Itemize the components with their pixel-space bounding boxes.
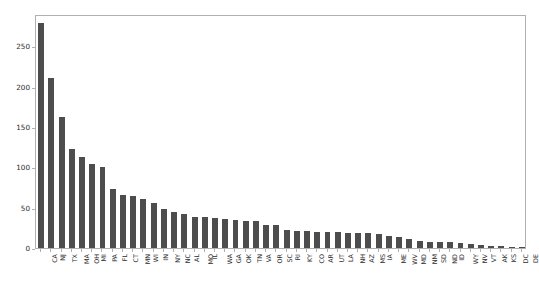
bar-al — [181, 214, 187, 248]
x-tick-mark — [408, 249, 409, 252]
y-tick-label: 50 — [0, 205, 30, 212]
bar-co — [304, 231, 310, 248]
bar-ny — [161, 209, 167, 248]
x-tick-label-sd: SD — [441, 254, 447, 263]
x-tick-mark — [40, 249, 41, 252]
x-tick-label-ny: NY — [175, 254, 181, 263]
x-tick-label-il: IL — [212, 254, 218, 259]
bar-ks — [498, 246, 504, 248]
x-tick-label-de: DE — [533, 254, 539, 263]
x-tick-mark — [81, 249, 82, 252]
x-tick-mark — [306, 249, 307, 252]
x-tick-label-nj: NJ — [60, 254, 66, 261]
bar-nd — [437, 242, 443, 248]
bar-sc — [273, 225, 279, 248]
x-tick-mark — [521, 249, 522, 252]
x-tick-mark — [214, 249, 215, 252]
x-tick-label-ri: RI — [295, 254, 301, 260]
x-tick-label-wy: WY — [473, 254, 479, 264]
bar-ma — [69, 149, 75, 248]
bar-sd — [427, 242, 433, 248]
x-tick-mark — [490, 249, 491, 252]
x-tick-mark — [388, 249, 389, 252]
x-tick-mark — [71, 249, 72, 252]
x-tick-label-ca: CA — [52, 254, 58, 263]
x-tick-mark — [367, 249, 368, 252]
bar-mo — [192, 217, 198, 248]
x-tick-label-ok: OK — [247, 254, 253, 263]
chart-axes — [35, 15, 526, 249]
x-tick-mark — [132, 249, 133, 252]
x-tick-mark — [224, 249, 225, 252]
x-tick-label-mn: MN — [145, 254, 151, 264]
bar-nm — [417, 241, 423, 248]
x-tick-label-ky: KY — [307, 254, 313, 262]
x-tick-label-fl: FL — [122, 254, 128, 261]
bar-ia — [376, 234, 382, 248]
bar-ms — [365, 233, 371, 248]
x-tick-label-or: OR — [278, 254, 284, 263]
x-tick-mark — [234, 249, 235, 252]
bar-chart-figure: 050100150200250 CANJTXMAOHMIPAFLCTMNWIIN… — [0, 0, 539, 288]
x-tick-label-mi: MI — [102, 254, 108, 261]
x-tick-mark — [204, 249, 205, 252]
y-tick-mark — [32, 47, 35, 48]
x-tick-label-ma: MA — [84, 254, 90, 264]
x-tick-label-tn: TN — [256, 254, 262, 263]
x-tick-mark — [265, 249, 266, 252]
bar-tn — [243, 221, 249, 248]
x-tick-label-id: ID — [459, 254, 465, 261]
x-tick-mark — [429, 249, 430, 252]
bar-wv — [396, 237, 402, 248]
bar-ca — [38, 23, 44, 248]
x-tick-mark — [91, 249, 92, 252]
x-tick-label-in: IN — [162, 254, 168, 261]
bar-ri — [284, 230, 290, 248]
x-tick-mark — [275, 249, 276, 252]
x-tick-mark — [419, 249, 420, 252]
y-tick-label: 100 — [0, 164, 30, 171]
y-tick-mark — [32, 168, 35, 169]
bar-il — [202, 217, 208, 248]
plot-area — [36, 16, 525, 248]
y-tick-label: 250 — [0, 43, 30, 50]
x-tick-label-az: AZ — [369, 254, 375, 263]
x-tick-label-sc: SC — [287, 254, 293, 263]
x-tick-mark — [357, 249, 358, 252]
x-tick-label-ia: IA — [387, 254, 393, 260]
x-tick-mark — [337, 249, 338, 252]
bar-ga — [222, 219, 228, 248]
x-tick-mark — [316, 249, 317, 252]
bar-mi — [89, 164, 95, 248]
x-tick-mark — [245, 249, 246, 252]
bar-vt — [478, 245, 484, 248]
bar-fl — [110, 189, 116, 248]
x-tick-mark — [122, 249, 123, 252]
bar-nv — [468, 244, 474, 248]
bar-tx — [59, 117, 65, 248]
bar-va — [253, 221, 259, 248]
bar-nc — [171, 212, 177, 248]
x-tick-mark — [439, 249, 440, 252]
x-tick-label-al: AL — [194, 254, 200, 262]
x-tick-label-dc: DC — [523, 254, 529, 263]
x-tick-label-pa: PA — [112, 254, 118, 262]
x-tick-mark — [511, 249, 512, 252]
bar-ut — [325, 232, 331, 248]
x-tick-mark — [286, 249, 287, 252]
x-tick-label-tx: TX — [72, 254, 78, 262]
bar-la — [335, 232, 341, 248]
y-tick-mark — [32, 249, 35, 250]
x-tick-label-nh: NH — [360, 254, 366, 264]
x-tick-label-la: LA — [348, 254, 354, 262]
x-tick-label-ga: GA — [237, 254, 243, 263]
x-tick-mark — [480, 249, 481, 252]
bar-ct — [120, 195, 126, 248]
x-tick-label-nv: NV — [482, 254, 488, 263]
x-tick-mark — [500, 249, 501, 252]
bar-de — [519, 247, 525, 248]
bar-in — [151, 203, 157, 248]
bar-wi — [140, 199, 146, 248]
x-tick-mark — [194, 249, 195, 252]
bar-pa — [100, 167, 106, 248]
